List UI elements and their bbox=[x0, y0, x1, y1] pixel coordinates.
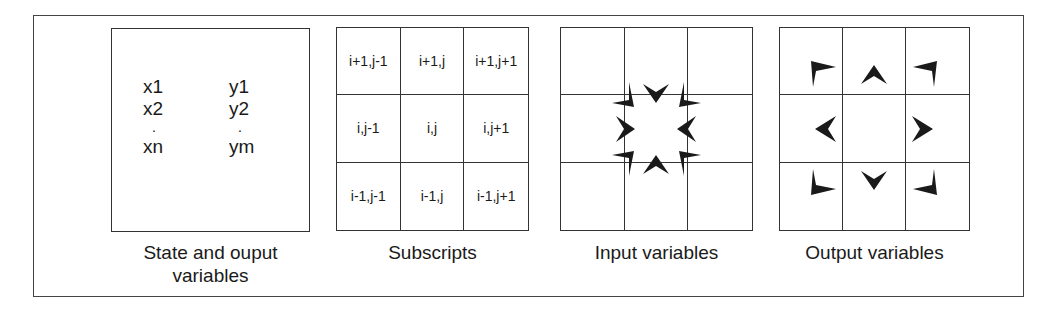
arrow-left-icon bbox=[815, 116, 836, 142]
arrow-right-icon bbox=[912, 116, 933, 142]
arrow-down-left-icon bbox=[811, 169, 836, 195]
output-arrows bbox=[0, 0, 1059, 318]
output-caption: Output variables bbox=[779, 241, 970, 264]
arrow-up-icon bbox=[861, 65, 887, 84]
arrow-up-left-icon bbox=[811, 61, 836, 87]
arrow-down-right-icon bbox=[913, 169, 937, 195]
arrow-up-right-icon bbox=[913, 61, 937, 87]
arrow-down-icon bbox=[861, 171, 887, 190]
